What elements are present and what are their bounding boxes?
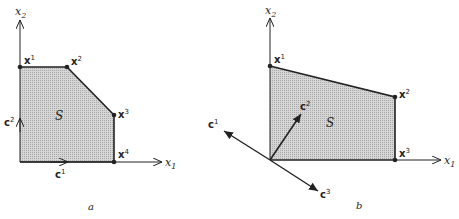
vertex-label-x4-a: x4 bbox=[118, 148, 129, 160]
vector-label-c2-a: c2 bbox=[4, 116, 14, 128]
vertex-dot bbox=[393, 95, 398, 100]
vertex-dot bbox=[65, 65, 70, 70]
vertex-dot bbox=[18, 65, 23, 70]
vector-c1-b bbox=[224, 131, 270, 160]
vector-label-c3-b: c3 bbox=[320, 188, 330, 200]
region-label-b: S bbox=[326, 116, 334, 130]
panel-caption-a: a bbox=[88, 201, 94, 212]
vertex-dot bbox=[393, 158, 398, 163]
figure-canvas: x2 x1 x1 x2 x3 x4 c1 c2 S a bbox=[0, 0, 459, 219]
vertex-label-x2-b: x2 bbox=[399, 88, 410, 100]
vector-label-c1-b: c1 bbox=[208, 118, 218, 130]
vertex-label-x1-b: x1 bbox=[274, 53, 285, 65]
feasible-region-b bbox=[270, 66, 395, 160]
vector-label-c1-a: c1 bbox=[55, 168, 65, 180]
x-axis-label-a: x1 bbox=[165, 156, 176, 171]
vertex-label-x3-b: x3 bbox=[399, 147, 410, 159]
panel-a: x2 x1 x1 x2 x3 x4 c1 c2 S a bbox=[4, 5, 176, 212]
y-axis-label-b: x2 bbox=[265, 4, 276, 19]
x-axis-label-b: x1 bbox=[444, 154, 455, 169]
vector-c3-b bbox=[270, 160, 318, 191]
vertex-dot bbox=[112, 160, 117, 165]
vertex-label-x2-a: x2 bbox=[71, 55, 82, 67]
vertex-dot bbox=[112, 113, 117, 118]
region-label-a: S bbox=[55, 109, 63, 123]
vertex-dot bbox=[268, 64, 273, 69]
feasible-region-a bbox=[20, 67, 114, 162]
panel-b: x2 x1 x1 x2 x3 c1 c2 c3 S b bbox=[208, 4, 455, 211]
vertex-label-x3-a: x3 bbox=[118, 108, 129, 120]
y-axis-label-a: x2 bbox=[15, 5, 26, 20]
panel-caption-b: b bbox=[356, 200, 362, 211]
vertex-label-x1-a: x1 bbox=[24, 54, 35, 66]
